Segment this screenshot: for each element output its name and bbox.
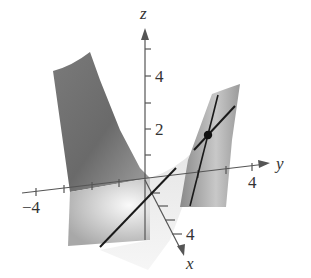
x-axis-arrow-icon: [177, 244, 185, 256]
z-tick-label-2: 2: [155, 120, 164, 139]
surface-left-upper: [53, 52, 150, 192]
z-axis-arrow-icon: [141, 28, 149, 40]
x-axis-label: x: [185, 254, 194, 273]
z-axis-label: z: [139, 4, 147, 23]
x-tick-label-4: 4: [186, 225, 195, 244]
y-axis-label: y: [274, 154, 284, 173]
marked-point: [204, 131, 212, 139]
z-tick-label-4: 4: [155, 67, 164, 86]
y-tick-label-pos: 4: [248, 173, 257, 192]
y-tick-label-neg: −4: [22, 198, 41, 217]
surface-right: [180, 84, 240, 207]
surface-plot: z 4 2 y 4 −4 4 x: [0, 0, 311, 278]
y-axis-arrow-icon: [258, 160, 270, 168]
